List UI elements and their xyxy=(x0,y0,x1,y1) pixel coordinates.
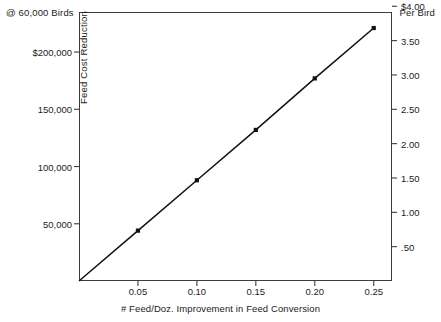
left-axis-labels: $200,000150,000100,00050,000 xyxy=(0,0,72,322)
x-axis-tick-label: 0.25 xyxy=(364,286,383,297)
right-axis-tick-label: 2.50 xyxy=(401,104,420,115)
right-axis-labels: $4.003.503.002.502.001.501.00.50 xyxy=(401,0,441,322)
chart-container: @ 60,000 Birds Per Bird $200,000150,0001… xyxy=(0,0,441,322)
right-axis-tick-label: 1.00 xyxy=(401,207,420,218)
right-axis-tick-label: 3.00 xyxy=(401,69,420,80)
x-axis-tick-label: 0.05 xyxy=(129,286,148,297)
right-axis-tick-label: 3.50 xyxy=(401,35,420,46)
y-axis-title: Feed Cost Reduction xyxy=(78,0,89,104)
x-axis-tick-label: 0.10 xyxy=(188,286,207,297)
right-axis-ticks xyxy=(392,6,397,246)
plot-area-frame xyxy=(79,12,392,281)
right-axis-tick-label: 2.00 xyxy=(401,138,420,149)
right-axis-tick-label: $4.00 xyxy=(401,1,425,12)
right-axis-tick-label: 1.50 xyxy=(401,172,420,183)
x-axis-tick-label: 0.20 xyxy=(306,286,325,297)
left-axis-tick-label: 50,000 xyxy=(43,218,72,229)
left-axis-tick-label: 150,000 xyxy=(38,104,72,115)
x-axis-tick-label: 0.15 xyxy=(247,286,266,297)
x-axis-title: # Feed/Doz. Improvement in Feed Conversi… xyxy=(0,303,441,314)
left-axis-tick-label: 100,000 xyxy=(38,161,72,172)
left-axis-tick-label: $200,000 xyxy=(32,47,72,58)
right-axis-tick-label: .50 xyxy=(401,241,414,252)
